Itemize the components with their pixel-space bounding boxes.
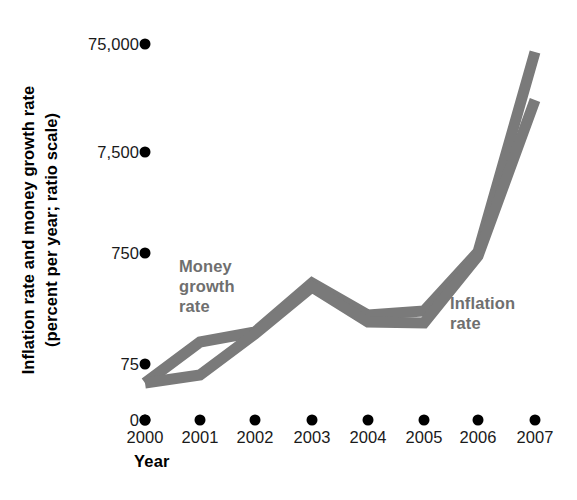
series-label-money-growth-rate: Money growth rate [179,256,235,316]
x-tick-label-2000: 2000 [126,428,163,447]
x-tick-dot-2006 [473,415,484,426]
plot-area [0,0,577,500]
x-tick-dot-2002 [250,415,261,426]
x-tick-label-2007: 2007 [516,428,553,447]
series-label-inflation-rate: Inflation rate [450,293,515,333]
x-tick-label-2003: 2003 [293,428,330,447]
x-tick-dot-2003 [307,415,318,426]
x-tick-dot-2000 [140,415,151,426]
x-tick-label-2004: 2004 [349,428,386,447]
x-tick-label-2001: 2001 [181,428,218,447]
x-axis-title: Year [134,452,170,471]
x-tick-dot-2001 [195,415,206,426]
chart-container: Inflation rate and money growth rate (pe… [0,0,577,500]
series-line-money-growth-rate [145,52,535,383]
x-tick-label-2002: 2002 [236,428,273,447]
x-tick-label-2005: 2005 [405,428,442,447]
x-tick-dot-2004 [363,415,374,426]
x-tick-label-2006: 2006 [459,428,496,447]
x-tick-dot-2005 [419,415,430,426]
x-tick-dot-2007 [530,415,541,426]
